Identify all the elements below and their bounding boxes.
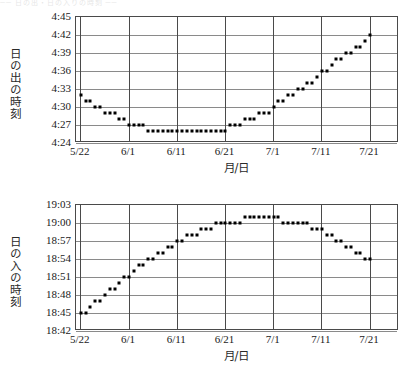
- data-point: [205, 228, 208, 231]
- data-point: [171, 246, 174, 249]
- y-tick-label: 18:48: [46, 289, 71, 300]
- data-point: [335, 240, 338, 243]
- y-tick-label: 4:33: [51, 83, 71, 94]
- data-point: [369, 34, 372, 37]
- data-point: [181, 240, 184, 243]
- data-point: [243, 216, 246, 219]
- data-point: [166, 130, 169, 133]
- gridline-vertical: [177, 17, 178, 141]
- data-point: [209, 130, 212, 133]
- data-point: [234, 222, 237, 225]
- data-point: [161, 130, 164, 133]
- x-tick-label: 7/21: [359, 334, 379, 345]
- data-point: [142, 124, 145, 127]
- data-point: [238, 124, 241, 127]
- data-point: [325, 70, 328, 73]
- data-point: [195, 234, 198, 237]
- data-point: [287, 222, 290, 225]
- x-tick-label: 7/1: [266, 334, 280, 345]
- data-point: [209, 228, 212, 231]
- data-point: [176, 130, 179, 133]
- gridline-horizontal: [76, 143, 397, 144]
- data-point: [79, 312, 82, 315]
- x-tick-label: 6/1: [121, 334, 135, 345]
- data-point: [340, 240, 343, 243]
- data-point: [296, 88, 299, 91]
- data-point: [118, 118, 121, 121]
- data-point: [79, 94, 82, 97]
- y-tick-label: 18:57: [46, 235, 71, 246]
- x-tick-label: 6/11: [167, 146, 186, 157]
- gridline-horizontal: [76, 107, 397, 108]
- data-point: [234, 124, 237, 127]
- data-point: [248, 216, 251, 219]
- data-point: [190, 234, 193, 237]
- data-point: [369, 258, 372, 261]
- data-point: [229, 124, 232, 127]
- data-point: [263, 216, 266, 219]
- gridline-horizontal: [76, 259, 397, 260]
- x-tick-label: 5/22: [70, 334, 90, 345]
- data-point: [99, 300, 102, 303]
- data-point: [108, 288, 111, 291]
- data-point: [291, 222, 294, 225]
- data-point: [219, 130, 222, 133]
- data-point: [137, 264, 140, 267]
- data-point: [200, 130, 203, 133]
- x-tick-label: 6/21: [215, 334, 235, 345]
- data-point: [354, 46, 357, 49]
- y-tick-label: 4:27: [51, 119, 71, 130]
- x-tick-label: 7/1: [266, 146, 280, 157]
- x-tick-label: 5/22: [70, 146, 90, 157]
- data-point: [99, 106, 102, 109]
- gridline-horizontal: [76, 89, 397, 90]
- gridline-vertical: [273, 205, 274, 329]
- data-point: [263, 112, 266, 115]
- gridline-vertical: [321, 17, 322, 141]
- data-point: [195, 130, 198, 133]
- data-point: [267, 216, 270, 219]
- data-point: [224, 130, 227, 133]
- data-point: [253, 118, 256, 121]
- x-tick-label: 7/11: [311, 146, 330, 157]
- data-point: [248, 118, 251, 121]
- data-point: [113, 288, 116, 291]
- data-point: [316, 228, 319, 231]
- gridline-vertical: [177, 205, 178, 329]
- data-point: [84, 312, 87, 315]
- data-point: [176, 240, 179, 243]
- gridline-vertical: [129, 17, 130, 141]
- data-point: [311, 82, 314, 85]
- gridline-vertical: [225, 17, 226, 141]
- x-tick-label: 6/11: [167, 334, 186, 345]
- data-point: [330, 64, 333, 67]
- gridline-vertical: [321, 205, 322, 329]
- data-point: [267, 112, 270, 115]
- data-point: [128, 276, 131, 279]
- data-point: [219, 222, 222, 225]
- data-point: [152, 258, 155, 261]
- data-point: [296, 222, 299, 225]
- data-point: [94, 106, 97, 109]
- data-point: [214, 222, 217, 225]
- data-point: [364, 40, 367, 43]
- data-point: [325, 234, 328, 237]
- data-point: [123, 276, 126, 279]
- gridline-horizontal: [76, 313, 397, 314]
- data-point: [166, 246, 169, 249]
- data-point: [152, 130, 155, 133]
- y-tick-label: 4:45: [51, 11, 71, 22]
- data-point: [118, 282, 121, 285]
- y-tick-label: 4:24: [51, 137, 71, 148]
- data-point: [156, 252, 159, 255]
- data-point: [224, 222, 227, 225]
- data-point: [277, 216, 280, 219]
- gridline-horizontal: [76, 241, 397, 242]
- data-point: [123, 118, 126, 121]
- data-point: [291, 94, 294, 97]
- data-point: [258, 112, 261, 115]
- data-point: [113, 112, 116, 115]
- y-tick-label: 18:42: [46, 325, 71, 336]
- data-point: [359, 252, 362, 255]
- y-tick-label: 4:30: [51, 101, 71, 112]
